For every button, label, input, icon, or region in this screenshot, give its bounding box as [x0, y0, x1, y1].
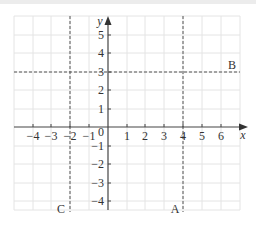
x-tick-label: −2: [64, 129, 77, 143]
y-tick-label: −4: [91, 194, 104, 208]
y-axis-arrow-icon: [105, 16, 112, 25]
y-tick-label: 1: [98, 102, 104, 116]
x-tick-label: 3: [161, 129, 167, 143]
x-axis-label: x: [239, 128, 246, 142]
origin-label: 0: [98, 125, 104, 139]
grid: [14, 16, 240, 210]
line-c-label: C: [57, 202, 65, 216]
y-tick-label: −1: [91, 139, 104, 153]
y-axis-label: y: [96, 14, 103, 28]
y-tick-label: 5: [98, 28, 104, 42]
x-tick-label: 5: [199, 129, 205, 143]
x-tick-label: −4: [27, 129, 40, 143]
x-tick-label: 1: [124, 129, 130, 143]
coordinate-plane: −4 −3 −2 −1 1 2 3 4 5 6 0 5 4 3 2 1 −1 −…: [0, 0, 256, 232]
line-b-label: B: [228, 58, 236, 72]
y-tick-label: 2: [98, 83, 104, 97]
y-tick-label: 4: [98, 46, 104, 60]
x-tick-label: 4: [180, 129, 186, 143]
y-tick-label: −2: [91, 157, 104, 171]
line-a-label: A: [171, 202, 180, 216]
y-tick-label: −3: [91, 176, 104, 190]
x-tick-label: −3: [45, 129, 58, 143]
y-tick-label: 3: [98, 65, 104, 79]
x-tick-label: 2: [142, 129, 148, 143]
x-tick-label: 6: [218, 129, 224, 143]
